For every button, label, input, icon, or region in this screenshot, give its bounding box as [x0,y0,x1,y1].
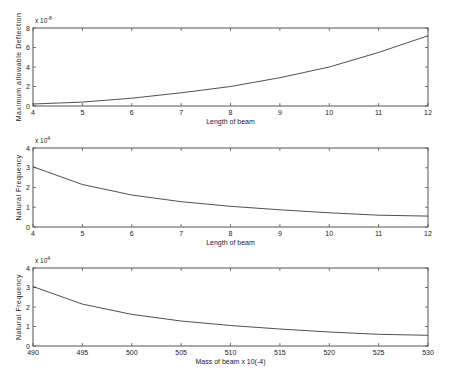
y-multiplier-label: x 104 [35,135,50,144]
x-tick-label: 10 [325,109,333,116]
x-tick-label: 4 [31,230,35,237]
x-tick-label: 11 [375,230,382,237]
y-tick-label: 4 [26,64,30,71]
y-multiplier-label: x 104 [35,255,50,264]
chart-figure: 45678910111202468x 10-8Length of beamMax… [0,0,450,379]
y-axis-label: Maximum allowable Deflection [15,13,22,122]
x-tick-label: 11 [375,109,382,116]
y-tick-label: 8 [26,25,30,32]
y-tick-label: 0 [26,343,30,350]
data-line [33,36,428,104]
x-tick-label: 495 [77,349,89,356]
y-tick-label: 2 [26,184,30,191]
x-tick-label: 500 [126,349,138,356]
y-tick-label: 6 [26,44,30,51]
x-tick-label: 505 [175,349,187,356]
x-tick-label: 7 [179,230,183,237]
x-axis-label: Mass of beam x 10(-4) [195,358,265,366]
y-axis-label: Natural Frequency [15,154,23,220]
y-tick-label: 3 [26,284,30,291]
y-tick-label: 4 [26,145,30,152]
x-tick-label: 4 [31,109,35,116]
x-tick-label: 490 [27,349,39,356]
x-tick-label: 520 [323,349,335,356]
axes-frame [33,28,428,106]
x-tick-label: 9 [278,109,282,116]
x-tick-label: 8 [229,230,233,237]
y-tick-label: 3 [26,164,30,171]
y-axis-label: Natural Frequency [15,274,23,340]
x-tick-label: 6 [130,109,134,116]
subplot-3: 49049550050551051552052553001234x 104Mas… [15,255,434,366]
x-tick-label: 5 [80,230,84,237]
x-tick-label: 8 [229,109,233,116]
y-multiplier-label: x 10-8 [35,15,52,24]
x-tick-label: 530 [422,349,434,356]
x-tick-label: 12 [424,230,432,237]
x-tick-label: 525 [373,349,385,356]
x-axis-label: Length of beam [206,239,255,247]
y-tick-label: 4 [26,265,30,272]
y-tick-label: 0 [26,103,30,110]
y-tick-label: 1 [26,204,30,211]
x-axis-label: Length of beam [206,118,255,126]
subplot-2: 45678910111201234x 104Length of beamNatu… [15,135,432,247]
y-tick-label: 2 [26,304,30,311]
y-tick-label: 1 [26,323,30,330]
x-tick-label: 515 [274,349,286,356]
y-tick-label: 2 [26,83,30,90]
x-tick-label: 12 [424,109,432,116]
x-tick-label: 5 [80,109,84,116]
x-tick-label: 10 [325,230,333,237]
x-tick-label: 6 [130,230,134,237]
axes-frame [33,268,428,346]
x-tick-label: 7 [179,109,183,116]
x-tick-label: 510 [225,349,237,356]
axes-frame [33,148,428,227]
x-tick-label: 9 [278,230,282,237]
y-tick-label: 0 [26,224,30,231]
data-line [33,287,428,336]
data-line [33,167,428,216]
subplot-1: 45678910111202468x 10-8Length of beamMax… [15,13,432,126]
